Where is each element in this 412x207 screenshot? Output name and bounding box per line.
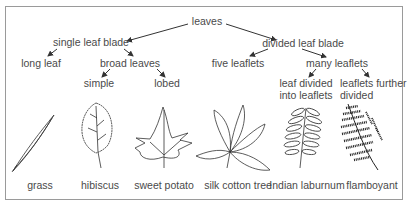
example-hibiscus: hibiscus — [81, 180, 119, 191]
example-silk-cotton-tree: silk cotton tree — [204, 180, 272, 191]
example-indian-laburnum: Indian laburnum — [269, 180, 344, 191]
leaf-divided-label-line2: into leaflets — [279, 90, 332, 101]
lobed-label: lobed — [154, 78, 180, 89]
simple-label: simple — [84, 78, 114, 89]
long-leaf-label: long leaf — [21, 58, 61, 69]
flamboyant-leaf-icon — [341, 104, 382, 170]
single-leaf-blade-label: single leaf blade — [53, 37, 129, 48]
sweet-potato-leaf-icon — [135, 107, 192, 168]
example-flamboyant: flamboyant — [346, 180, 397, 191]
diagram-graphics — [0, 0, 412, 207]
five-leaflets-label: five leaflets — [212, 58, 265, 69]
grass-leaf-icon — [12, 115, 54, 172]
leaf-divided-label-line1: leaf divided — [279, 78, 332, 89]
arrows — [48, 24, 369, 77]
divided-leaf-blade-label: divided leaf blade — [262, 38, 344, 49]
example-grass: grass — [27, 180, 53, 191]
hibiscus-leaf-icon — [82, 103, 112, 168]
broad-leaves-label: broad leaves — [100, 58, 160, 69]
root-label: leaves — [192, 16, 222, 27]
example-sweet-potato: sweet potato — [134, 180, 194, 191]
many-leaflets-label: many leaflets — [306, 58, 368, 69]
leaflets-further-label-line1: leaflets further — [340, 78, 407, 89]
indian-laburnum-leaf-icon — [284, 107, 323, 168]
silk-cotton-leaf-icon — [196, 105, 270, 170]
leaflets-further-label-line2: divided — [340, 90, 373, 101]
